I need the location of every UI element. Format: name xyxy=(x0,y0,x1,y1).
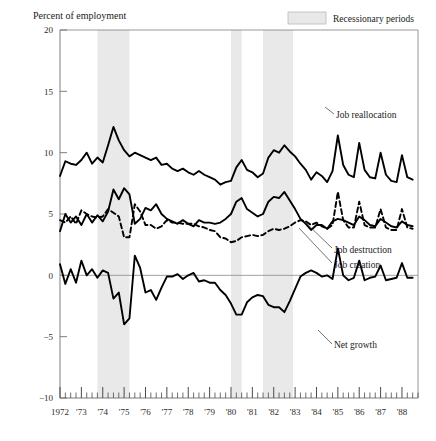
x-tick-label: '74 xyxy=(97,407,108,417)
x-tick-label: '82 xyxy=(268,407,279,417)
x-tick-label: '81 xyxy=(247,407,258,417)
y-axis-ticks: −10−505101520 xyxy=(39,25,67,403)
x-tick-label: 1972 xyxy=(51,407,69,417)
x-tick-label: '77 xyxy=(162,407,173,417)
legend: Recessionary periods xyxy=(288,12,414,24)
x-tick-label: '80 xyxy=(226,407,237,417)
series-label-destruction: Job destruction xyxy=(334,245,392,255)
y-tick-label: 10 xyxy=(44,148,54,158)
series-label-creation: Job creation xyxy=(334,260,380,270)
x-tick-label: '84 xyxy=(311,407,322,417)
y-tick-label: −10 xyxy=(39,393,54,403)
callout-leader-line xyxy=(318,330,332,344)
x-tick-label: '88 xyxy=(397,407,408,417)
callout-leader-line xyxy=(325,107,334,114)
legend-swatch-recession xyxy=(288,12,326,24)
series-label-net-growth: Net growth xyxy=(334,340,377,350)
job-flows-figure: −10−505101520 1972'73'74'75'76'77'78'79'… xyxy=(0,0,436,441)
recession-band xyxy=(231,30,242,398)
y-tick-label: 0 xyxy=(49,271,54,281)
x-tick-label: '87 xyxy=(375,407,386,417)
recession-band xyxy=(263,30,293,398)
x-tick-label: '85 xyxy=(333,407,344,417)
x-tick-label: '75 xyxy=(119,407,130,417)
chart-canvas: −10−505101520 1972'73'74'75'76'77'78'79'… xyxy=(0,0,436,441)
x-tick-label: '79 xyxy=(204,407,215,417)
y-tick-label: 15 xyxy=(44,87,54,97)
recession-band xyxy=(97,30,129,398)
x-tick-label: '76 xyxy=(140,407,151,417)
x-tick-label: '86 xyxy=(354,407,365,417)
y-axis-title: Percent of employment xyxy=(33,10,127,21)
x-tick-label: '83 xyxy=(290,407,301,417)
series-label-reallocation: Job reallocation xyxy=(336,110,397,120)
callout-leader-line xyxy=(299,228,332,263)
y-tick-label: 5 xyxy=(49,209,54,219)
legend-label-recession: Recessionary periods xyxy=(333,14,414,24)
x-tick-label: '78 xyxy=(183,407,194,417)
x-tick-label: '73 xyxy=(76,407,87,417)
y-tick-label: −5 xyxy=(43,332,53,342)
y-tick-label: 20 xyxy=(44,25,54,35)
